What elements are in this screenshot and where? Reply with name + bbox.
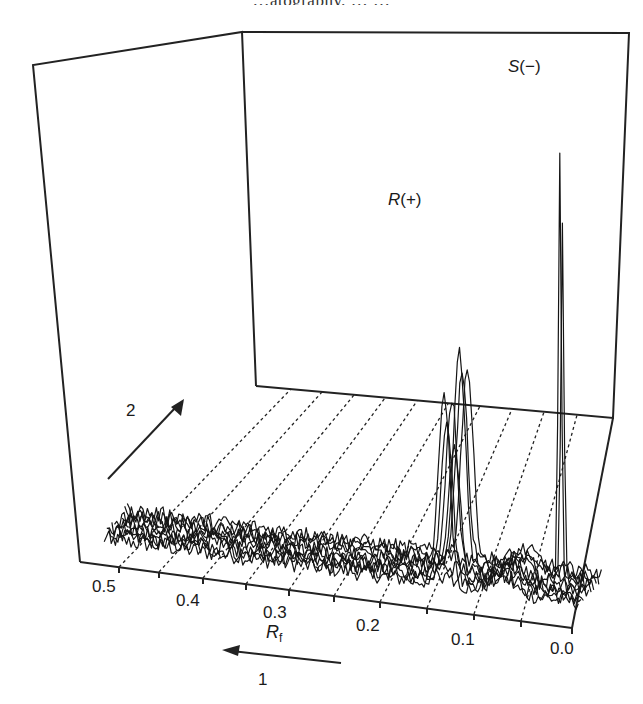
tick-label-0.2: 0.2 bbox=[356, 616, 380, 635]
direction-arrow-1: 1 bbox=[222, 645, 341, 689]
trace-2 bbox=[107, 422, 581, 604]
peak-label-r-plus: R(+) bbox=[388, 190, 422, 209]
tick-label-0.5: 0.5 bbox=[92, 577, 116, 596]
axis-label-rf: Rf bbox=[266, 622, 283, 645]
tick-label-0.1: 0.1 bbox=[451, 630, 475, 649]
direction-arrow-2: 2 bbox=[108, 399, 184, 479]
chromatogram-3d-figure: 0.5 0.4 0.3 0.2 0.1 0.0 Rf 1 2 R(+) S(−) bbox=[0, 0, 643, 704]
peak-label-s-minus: S(−) bbox=[508, 57, 541, 76]
arrow-2-label: 2 bbox=[126, 401, 135, 420]
trace-1 bbox=[104, 393, 578, 610]
tick-label-0.3: 0.3 bbox=[263, 603, 287, 622]
tick-label-0.0: 0.0 bbox=[550, 639, 574, 658]
right-floor-edge bbox=[572, 418, 613, 628]
tick-label-0.4: 0.4 bbox=[176, 591, 200, 610]
trace-4 bbox=[112, 403, 586, 596]
front-axis-tick-labels: 0.5 0.4 0.3 0.2 0.1 0.0 bbox=[92, 577, 574, 658]
floor-grid bbox=[119, 389, 577, 621]
arrow-1-label: 1 bbox=[258, 670, 267, 689]
chromatogram-traces bbox=[104, 153, 601, 609]
back-wall bbox=[242, 32, 629, 418]
left-wall bbox=[33, 32, 256, 562]
